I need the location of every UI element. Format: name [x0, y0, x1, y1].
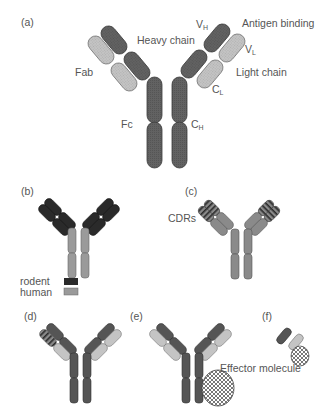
panel-c-stem — [231, 229, 252, 279]
antigen-binding-label: Antigen binding — [242, 17, 315, 29]
cl-label: CL — [212, 83, 224, 96]
legend-rodent-swatch — [64, 278, 78, 285]
panel-a: (a) VH Antigen binding — [21, 16, 315, 168]
panel-e-label: (e) — [130, 310, 143, 322]
ch-label: CH — [191, 118, 204, 131]
vh-label: VH — [196, 18, 208, 31]
fc-label: Fc — [121, 118, 133, 130]
panel-d-stem — [70, 353, 91, 403]
left-ch3-domain — [147, 122, 162, 168]
panel-d-label: (d) — [24, 310, 37, 322]
panel-c: (c) CDRs — [168, 185, 282, 279]
panel-d: (d) — [24, 310, 123, 403]
fc-stem — [147, 77, 187, 168]
panel-f: (f) Effector molecule — [220, 310, 309, 374]
vl-label: VL — [245, 43, 256, 56]
cdrs-label: CDRs — [168, 212, 196, 224]
effector-molecule-e — [202, 370, 234, 406]
heavy-chain-label: Heavy chain — [137, 34, 195, 46]
panel-e-stem — [182, 353, 203, 403]
legend: rodent human — [20, 275, 78, 298]
light-chain-label: Light chain — [236, 66, 287, 78]
effector-molecule-label: Effector molecule — [220, 362, 301, 374]
panel-b-stem — [68, 228, 89, 278]
right-ch3-domain — [172, 122, 187, 168]
panel-a-label: (a) — [21, 16, 34, 28]
panel-e: (e) — [130, 310, 234, 406]
right-ch2-domain — [172, 77, 187, 123]
panel-b: (b) rodent human — [20, 185, 121, 298]
legend-human-swatch — [64, 288, 78, 295]
panel-c-left-arm — [196, 198, 235, 237]
panel-f-label: (f) — [262, 310, 272, 322]
left-ch2-domain — [147, 77, 162, 123]
antibody-diagram: (a) VH Antigen binding — [0, 0, 329, 411]
panel-b-label: (b) — [21, 185, 34, 197]
fab-label: Fab — [75, 66, 93, 78]
panel-c-label: (c) — [185, 185, 197, 197]
legend-human-label: human — [20, 286, 52, 298]
